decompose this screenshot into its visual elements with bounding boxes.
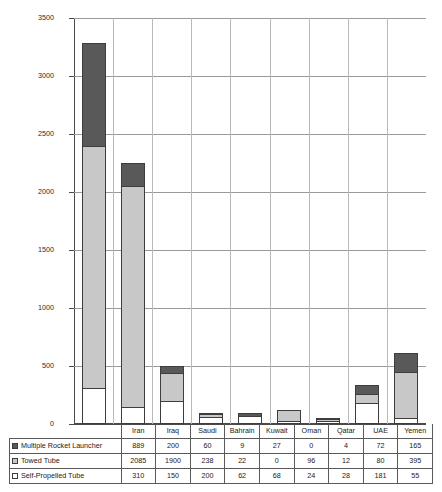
plot-area: 0500100015002000250030003500 (74, 18, 426, 424)
y-tick-label-500: 500 (20, 362, 54, 369)
bar-segment-uae-2 (355, 403, 379, 424)
category-separator-7 (348, 18, 349, 424)
table-cell-qatar-2: 28 (329, 469, 364, 484)
legend-swatch-icon-1 (12, 458, 18, 464)
bar-segment-bahrain-2 (199, 417, 223, 424)
table-corner-cell (10, 424, 122, 439)
table-cell-iraq-0: 200 (156, 439, 191, 454)
table-cell-yemen-0: 165 (398, 439, 433, 454)
bar-segment-oman-1 (277, 410, 301, 421)
stacked-bar-iraq (121, 163, 145, 424)
bar-segment-iran-0 (82, 43, 106, 146)
stacked-bar-oman (277, 410, 301, 424)
table-cell-yemen-1: 395 (398, 454, 433, 469)
stacked-bar-iran (82, 43, 106, 424)
legend-row-1: Towed Tube (10, 454, 122, 469)
y-tick-label-1000: 1000 (20, 304, 54, 311)
bar-slot-bahrain (191, 18, 230, 424)
table-cell-iran-0: 889 (121, 439, 156, 454)
stacked-bar-bahrain (199, 413, 223, 424)
category-separator-8 (387, 18, 388, 424)
stacked-bar-kuwait (238, 413, 262, 424)
table-cell-iran-1: 2085 (121, 454, 156, 469)
bar-segment-iraq-0 (121, 163, 145, 186)
category-separator-1 (113, 18, 114, 424)
table-cell-iraq-2: 150 (156, 469, 191, 484)
table-body: Multiple Rocket Launcher8892006092704721… (10, 439, 433, 484)
bar-segment-iraq-1 (121, 186, 145, 406)
table-category-oman: Oman (294, 424, 329, 439)
stacked-bar-saudi (160, 366, 184, 424)
bar-segment-saudi-1 (160, 373, 184, 401)
table-cell-bahrain-1: 22 (225, 454, 260, 469)
y-tick-label-2000: 2000 (20, 188, 54, 195)
table-cell-uae-2: 181 (363, 469, 398, 484)
bar-slot-qatar (309, 18, 348, 424)
category-separator-5 (270, 18, 271, 424)
table-cell-bahrain-2: 62 (225, 469, 260, 484)
table-category-qatar: Qatar (329, 424, 364, 439)
legend-label-2: Self-Propelled Tube (21, 472, 84, 481)
bar-segment-saudi-2 (160, 401, 184, 424)
table-cell-oman-0: 0 (294, 439, 329, 454)
bar-slot-saudi (152, 18, 191, 424)
y-tick-label-1500: 1500 (20, 246, 54, 253)
y-tick-label-2500: 2500 (20, 130, 54, 137)
table-category-kuwait: Kuwait (259, 424, 294, 439)
table-header-row: IranIraqSaudiBahrainKuwaitOmanQatarUAEYe… (10, 424, 433, 439)
bar-slot-iraq (113, 18, 152, 424)
bar-segment-kuwait-2 (238, 416, 262, 424)
bar-segment-saudi-0 (160, 366, 184, 373)
data-table: IranIraqSaudiBahrainKuwaitOmanQatarUAEYe… (9, 424, 433, 484)
table-cell-saudi-1: 238 (190, 454, 225, 469)
category-separator-6 (309, 18, 310, 424)
legend-label-0: Multiple Rocket Launcher (21, 442, 102, 451)
category-separator-3 (191, 18, 192, 424)
legend-label-1: Towed Tube (21, 457, 60, 466)
table-category-bahrain: Bahrain (225, 424, 260, 439)
table-cell-yemen-2: 55 (398, 469, 433, 484)
table-category-yemen: Yemen (398, 424, 433, 439)
legend-row-0: Multiple Rocket Launcher (10, 439, 122, 454)
table-cell-iran-2: 310 (121, 469, 156, 484)
table-row: Self-Propelled Tube310150200626824281815… (10, 469, 433, 484)
table-cell-kuwait-1: 0 (259, 454, 294, 469)
table-cell-bahrain-0: 9 (225, 439, 260, 454)
table-category-uae: UAE (363, 424, 398, 439)
stacked-bar-yemen (394, 353, 418, 424)
table-cell-qatar-0: 4 (329, 439, 364, 454)
bar-slot-kuwait (230, 18, 269, 424)
table-row: Multiple Rocket Launcher8892006092704721… (10, 439, 433, 454)
category-separator-4 (230, 18, 231, 424)
stacked-column-chart-with-data-table: 0500100015002000250030003500 IranIraqSau… (0, 0, 442, 492)
legend-row-2: Self-Propelled Tube (10, 469, 122, 484)
table-row: Towed Tube20851900238220961280395 (10, 454, 433, 469)
table-cell-iraq-1: 1900 (156, 454, 191, 469)
bar-segment-yemen-1 (394, 372, 418, 418)
table-category-saudi: Saudi (190, 424, 225, 439)
table-cell-uae-0: 72 (363, 439, 398, 454)
bar-slot-yemen (387, 18, 426, 424)
stacked-bar-uae (355, 385, 379, 424)
y-tick-label-3500: 3500 (20, 14, 54, 21)
y-tick-label-3000: 3000 (20, 72, 54, 79)
bar-slot-uae (348, 18, 387, 424)
table-cell-saudi-0: 60 (190, 439, 225, 454)
legend-swatch-icon-2 (12, 473, 18, 479)
table-cell-kuwait-2: 68 (259, 469, 294, 484)
table-cell-oman-2: 24 (294, 469, 329, 484)
bar-slot-iran (74, 18, 113, 424)
bar-segment-uae-1 (355, 394, 379, 403)
bar-series-group (74, 18, 426, 424)
bar-segment-iran-2 (82, 388, 106, 424)
bar-segment-yemen-0 (394, 353, 418, 372)
table-category-iran: Iran (121, 424, 156, 439)
legend-swatch-icon-0 (12, 443, 18, 449)
bar-segment-iran-1 (82, 146, 106, 388)
bar-segment-iraq-2 (121, 407, 145, 424)
table-category-iraq: Iraq (156, 424, 191, 439)
bar-segment-uae-0 (355, 385, 379, 393)
table-cell-saudi-2: 200 (190, 469, 225, 484)
table-cell-oman-1: 96 (294, 454, 329, 469)
category-separator-2 (152, 18, 153, 424)
